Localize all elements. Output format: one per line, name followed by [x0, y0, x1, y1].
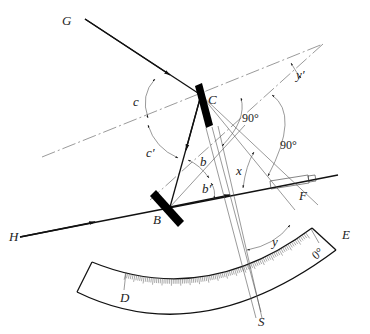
- d-mark: [124, 272, 126, 290]
- arc-b-prime: [211, 183, 215, 199]
- label-c: C: [208, 92, 217, 107]
- index-arm: [206, 126, 262, 318]
- scale-arc: [77, 228, 336, 314]
- label-h: H: [8, 229, 19, 244]
- arc-90-lower: [268, 95, 285, 176]
- label-y-prime-angle: y′: [294, 67, 305, 82]
- label-y-angle: y: [270, 234, 278, 249]
- label-90-lower: 90°: [280, 138, 297, 152]
- label-b: B: [153, 212, 161, 227]
- label-b-prime-angle: b′: [202, 181, 212, 196]
- label-f: F: [298, 188, 308, 203]
- label-c-prime-angle: c′: [146, 145, 155, 160]
- label-d: D: [119, 290, 130, 305]
- label-90-upper: 90°: [242, 111, 259, 125]
- sextant-diagram: G H C B F E D S c c′ b b′ x y y′ 90° 90°…: [0, 0, 370, 334]
- label-g: G: [62, 13, 72, 28]
- label-c-angle: c: [133, 94, 139, 109]
- label-s: S: [258, 314, 265, 329]
- label-b-angle: b: [200, 154, 207, 169]
- label-x-angle: x: [235, 163, 242, 178]
- label-e: E: [341, 227, 350, 242]
